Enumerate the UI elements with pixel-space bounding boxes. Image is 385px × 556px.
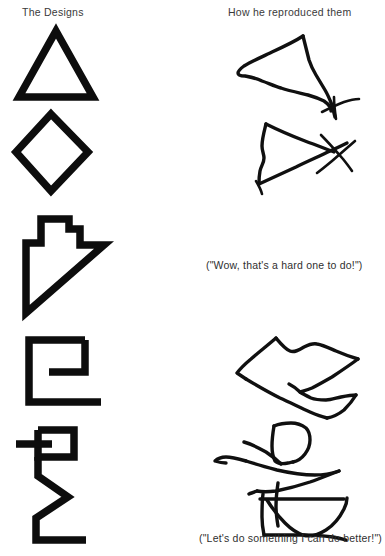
- column-heading-designs: The Designs: [22, 6, 84, 18]
- design-flag-zigzag-figure: [16, 430, 86, 540]
- reproduction-fragmented-box-and-wedge: [215, 423, 347, 540]
- quote-middle: ("Wow, that's a hard one to do!"): [206, 259, 363, 271]
- design-triangle: [19, 31, 93, 97]
- figure-canvas: The Designs How he reproduced them: [0, 0, 385, 556]
- design-bracket-figure: [29, 340, 101, 402]
- design-diamond: [16, 114, 88, 191]
- drawings-layer: [0, 0, 385, 556]
- quote-bottom: ("Let's do something I can do better!"): [199, 532, 382, 544]
- column-heading-reproductions: How he reproduced them: [228, 6, 351, 18]
- reproduction-wobbly-triangle-with-tail: [238, 36, 359, 119]
- design-arrow-polygon: [26, 219, 104, 313]
- reproduction-sideways-triangle: [256, 124, 355, 194]
- reproduction-left-pointing-polygon: [237, 338, 358, 418]
